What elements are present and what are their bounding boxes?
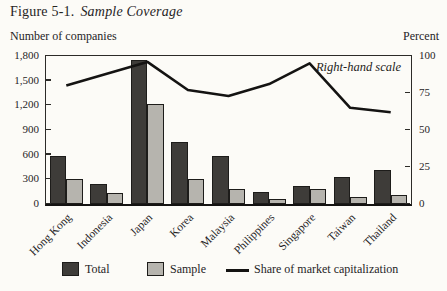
- figure-title: Figure 5-1.Sample Coverage: [10, 4, 183, 20]
- left-axis-tick-label: 0: [3, 197, 39, 209]
- right-axis-tick-mark: [405, 203, 410, 205]
- figure-5-1-sample-coverage: Figure 5-1.Sample Coverage Number of com…: [0, 0, 447, 291]
- left-axis-tick-mark: [46, 153, 51, 155]
- right-axis-tick-label: 50: [419, 123, 430, 135]
- market-cap-line-layer: [46, 56, 411, 204]
- legend-sample-swatch: [147, 262, 164, 276]
- legend-line-label: Share of market capitalization: [254, 262, 398, 277]
- left-axis-tick-label: 1,500: [3, 74, 39, 86]
- right-axis-tick-label: 100: [419, 49, 436, 61]
- right-axis-tick-label: 25: [419, 160, 430, 172]
- right-axis-tick-mark: [405, 129, 410, 131]
- left-axis-tick-label: 1,200: [3, 98, 39, 110]
- left-axis-tick-mark: [46, 178, 51, 180]
- left-axis-title: Number of companies: [10, 29, 117, 44]
- left-axis-tick-mark: [46, 104, 51, 106]
- left-axis-tick-mark: [46, 129, 51, 131]
- right-axis-tick-label: 0: [419, 197, 425, 209]
- right-axis-tick-mark: [405, 55, 410, 57]
- right-axis-tick-mark: [405, 92, 410, 94]
- left-axis-tick-mark: [46, 55, 51, 57]
- legend-line-swatch: [226, 269, 249, 272]
- legend-total-swatch: [62, 262, 79, 276]
- left-axis-tick-label: 300: [3, 172, 39, 184]
- left-axis-tick-mark: [46, 79, 51, 81]
- plot-area: Right-hand scale: [45, 55, 412, 206]
- legend-total-label: Total: [85, 262, 110, 277]
- left-axis-tick-label: 900: [3, 123, 39, 135]
- legend-sample-label: Sample: [170, 262, 206, 277]
- right-axis-tick-label: 75: [419, 86, 430, 98]
- figure-name: Sample Coverage: [80, 4, 182, 19]
- left-axis-tick-mark: [46, 203, 51, 205]
- figure-number: Figure 5-1.: [10, 4, 74, 19]
- right-axis-title: Percent: [403, 29, 439, 44]
- left-axis-tick-label: 1,800: [3, 49, 39, 61]
- right-hand-scale-annotation: Right-hand scale: [316, 60, 401, 75]
- right-axis-tick-mark: [405, 166, 410, 168]
- left-axis-tick-label: 600: [3, 148, 39, 160]
